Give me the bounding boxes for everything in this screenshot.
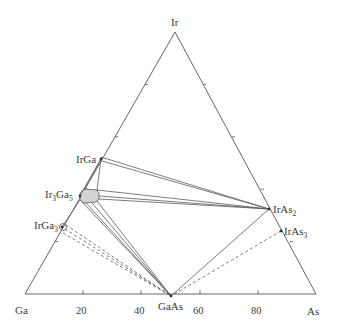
right-edge-ticks [203,84,293,241]
phase-label-irga: IrGa [76,153,96,165]
vertex-label-as: As [307,305,319,317]
ir3ga5-point [79,195,82,198]
bottom-edge-ticks [83,290,258,294]
phase-label-ir3ga5: Ir3Ga5 [45,188,73,203]
phase-label-iras2: IrAs2 [273,203,297,218]
tick-label-40: 40 [134,305,145,316]
phase-label-gaas: GaAs [158,300,183,312]
irga3-point [61,226,64,229]
tick-label-80: 80 [251,305,262,316]
ternary-phase-diagram: Ir Ga As 20 40 60 80 IrGa Ir3Ga5 IrGa3 I… [0,0,338,336]
ternary-triangle [25,32,316,294]
vertex-label-ga: Ga [15,304,28,316]
tick-label-60: 60 [193,305,204,316]
tick-label-20: 20 [76,305,87,316]
iras3-point [280,230,283,233]
vertex-label-ir: Ir [171,16,179,28]
irga-point [100,158,103,161]
gaas-point [170,295,173,298]
phase-label-irga3: IrGa3 [34,219,58,234]
iras2-point [268,208,271,211]
phase-label-iras3: IrAs3 [284,225,308,240]
tie-lines [62,157,269,296]
dashed-tie-lines [63,225,281,296]
